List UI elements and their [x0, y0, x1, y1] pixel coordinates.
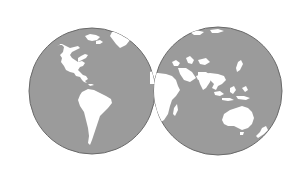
world-map-svg	[0, 0, 306, 183]
world-map	[0, 0, 306, 183]
